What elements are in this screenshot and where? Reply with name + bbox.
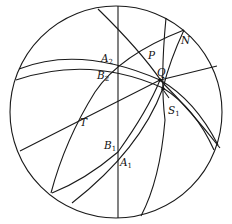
point-q [158,78,162,82]
label-t: T [80,117,87,128]
label-p: P [148,50,155,61]
label-q: Q [157,67,166,78]
label-a2: A2 [101,53,113,66]
label-b2: B2 [97,70,109,83]
point-s1 [161,87,165,91]
label-s1: S1 [168,105,180,118]
label-a1: A1 [120,157,132,170]
stereogram-diagram: A2 B2 P N Q S1 T B1 A1 [0,0,232,224]
great-circle-near-vertical [141,18,166,216]
label-n: N [181,35,190,46]
label-b1: B1 [104,140,116,153]
stereogram-svg [0,0,232,224]
great-circle-q-b1 [52,80,160,193]
